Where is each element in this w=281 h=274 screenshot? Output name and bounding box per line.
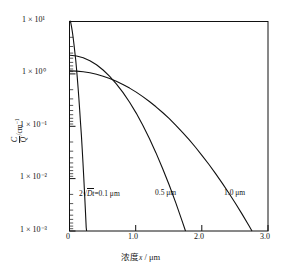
curve-annotation-1-0um: 1.0 μm bbox=[224, 188, 245, 197]
plot-frame bbox=[70, 22, 269, 232]
x-axis-title-unit: / μm bbox=[142, 252, 160, 262]
x-tick-label-0: 0 bbox=[66, 233, 70, 241]
y-axis-denominator: Q bbox=[21, 136, 29, 144]
x-axis-title-main: 浓度 bbox=[121, 252, 139, 262]
x-tick-label-2: 2.0 bbox=[194, 233, 204, 241]
sqrt-symbol: √Dt bbox=[83, 188, 95, 198]
x-major-ticks bbox=[70, 225, 269, 231]
y-axis-fraction: C Q bbox=[11, 136, 29, 144]
curve-annotation-0-5um: 0.5 μm bbox=[155, 188, 176, 197]
y-tick-label-1e-2: 1 × 10⁻² bbox=[20, 173, 47, 181]
annotation-unit: μm bbox=[110, 189, 120, 198]
y-tick-label-1e-3: 1 × 10⁻³ bbox=[20, 226, 47, 234]
y-tick-label-1e1: 1 × 10¹ bbox=[22, 16, 45, 24]
curve-0-1um bbox=[70, 21, 87, 231]
x-axis-title: 浓度x / μm bbox=[0, 250, 281, 262]
y-minor-ticks bbox=[70, 37, 74, 228]
y-tick-label-1e0: 1 × 10⁰ bbox=[22, 68, 46, 76]
curve-1-0um bbox=[70, 71, 252, 231]
chart-figure: 1 × 10¹ 1 × 10⁰ 1 × 10⁻¹ 1 × 10⁻² 1 × 10… bbox=[0, 0, 281, 274]
annotation-suffix: =0.1 bbox=[94, 189, 108, 198]
x-tick-label-1: 1.0 bbox=[128, 233, 138, 241]
x-tick-label-3: 3.0 bbox=[260, 233, 270, 241]
curve-annotation-0-1um: 2√Dt=0.1 μm bbox=[79, 188, 120, 198]
y-axis-unit: /cm−1 bbox=[16, 118, 25, 135]
curve-0-5um bbox=[70, 55, 186, 231]
y-axis-title: C Q /cm−1 bbox=[9, 100, 31, 160]
